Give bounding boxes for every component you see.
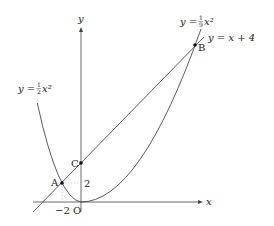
label-line: y = x + 4 bbox=[207, 32, 255, 43]
svg-text:2: 2 bbox=[37, 88, 41, 95]
curve-half-parabola bbox=[37, 103, 81, 202]
point-b-marker bbox=[193, 43, 197, 47]
point-b-label: B bbox=[198, 42, 205, 53]
x-tick-label: −2 bbox=[55, 205, 70, 216]
svg-text:9: 9 bbox=[199, 21, 203, 28]
svg-text:1: 1 bbox=[37, 81, 41, 88]
svg-text:x²: x² bbox=[42, 83, 52, 94]
point-c-marker bbox=[79, 161, 83, 165]
svg-text:1: 1 bbox=[199, 14, 203, 21]
point-a-label: A bbox=[50, 177, 59, 188]
label-half-parabola: y = 1 2 x² bbox=[17, 81, 52, 95]
x-axis-arrow-icon bbox=[198, 200, 203, 204]
svg-text:y =: y = bbox=[17, 83, 35, 94]
diagram-canvas: A B C x y O −2 2 y = 1 2 x² y = 1 9 x² y… bbox=[0, 0, 274, 226]
guide-lines bbox=[62, 183, 81, 202]
label-ninth-parabola: y = 1 9 x² bbox=[179, 14, 214, 28]
y-axis-label: y bbox=[77, 13, 84, 24]
x-axis-label: x bbox=[206, 196, 212, 207]
y-axis-arrow-icon bbox=[79, 27, 83, 32]
svg-text:x²: x² bbox=[204, 16, 214, 27]
line-x-plus-4 bbox=[33, 37, 204, 212]
y-tick-label: 2 bbox=[84, 178, 90, 189]
curve-ninth-parabola bbox=[81, 29, 201, 202]
point-a-marker bbox=[60, 181, 64, 185]
svg-text:y =: y = bbox=[179, 16, 197, 27]
axes bbox=[33, 27, 203, 212]
point-c-label: C bbox=[71, 158, 79, 169]
origin-label: O bbox=[73, 205, 81, 216]
